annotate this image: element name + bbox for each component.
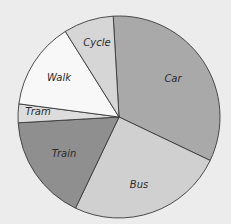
slice-label-tram: Tram (25, 106, 51, 117)
slice-label-train: Train (52, 148, 77, 159)
slice-label-cycle: Cycle (83, 37, 110, 48)
slice-label-bus: Bus (130, 179, 148, 190)
slice-label-car: Car (164, 73, 182, 84)
pie-slices (18, 16, 220, 218)
pie-chart: CarBusTrainTramWalkCycle (0, 0, 231, 224)
slice-label-walk: Walk (47, 72, 72, 83)
